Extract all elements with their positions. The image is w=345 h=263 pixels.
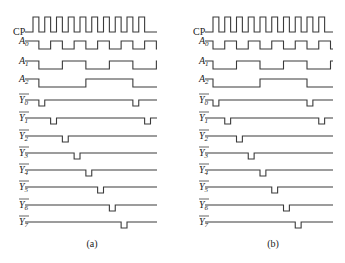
waveform-y0_n-b (205, 100, 333, 106)
waveform-cp-b (205, 17, 333, 32)
label-y3_n-b: Y3 (199, 147, 209, 160)
label-y3_n-a: Y3 (19, 147, 29, 160)
waveform-y4_n-b (205, 170, 333, 176)
label-a2-b: A2 (198, 73, 209, 86)
waveform-a1-a (25, 61, 157, 69)
label-y6_n-b: Y6 (199, 199, 209, 212)
waveform-a0-a (25, 41, 157, 49)
timing-diagram: CPA0A1A2Y0Y1Y2Y3Y4Y5Y6Y7 CPA0A1A2Y0Y1Y2Y… (0, 0, 345, 263)
panel-b: CPA0A1A2Y0Y1Y2Y3Y4Y5Y6Y7 (193, 17, 333, 229)
label-y4_n-a: Y4 (19, 164, 29, 177)
caption-a: (a) (86, 238, 97, 250)
panel-a: CPA0A1A2Y0Y1Y2Y3Y4Y5Y6Y7 (13, 17, 157, 229)
label-y0_n-b: Y0 (199, 94, 209, 107)
label-y7_n-a: Y7 (19, 216, 29, 229)
label-y5_n-a: Y5 (19, 181, 29, 194)
waveform-a2-a (25, 79, 157, 87)
waveform-y3_n-b (205, 153, 333, 159)
waveform-y6_n-a (25, 205, 157, 211)
label-y4_n-b: Y4 (199, 164, 209, 177)
label-y2_n-a: Y2 (19, 130, 29, 143)
waveform-y1_n-b (205, 118, 333, 124)
label-a0-a: A0 (18, 35, 29, 48)
label-y1_n-b: Y1 (199, 112, 208, 125)
waveform-y7_n-a (25, 222, 157, 228)
label-y1_n-a: Y1 (19, 112, 28, 125)
waveform-y0_n-a (25, 100, 157, 106)
waveform-y4_n-a (25, 170, 157, 176)
waveform-y6_n-b (205, 205, 333, 211)
waveform-a2-b (205, 79, 333, 87)
label-y0_n-a: Y0 (19, 94, 29, 107)
label-a1-a: A1 (18, 55, 29, 68)
label-y5_n-b: Y5 (199, 181, 209, 194)
waveform-y7_n-b (205, 222, 333, 228)
waveform-a0-b (205, 41, 333, 49)
caption-b: (b) (267, 238, 279, 250)
waveform-y3_n-a (25, 153, 157, 159)
waveform-y1_n-a (25, 118, 157, 124)
waveform-a1-b (205, 61, 333, 69)
label-a2-a: A2 (18, 73, 29, 86)
label-a0-b: A0 (198, 35, 209, 48)
waveform-y5_n-b (205, 187, 333, 193)
label-y2_n-b: Y2 (199, 130, 209, 143)
label-y7_n-b: Y7 (199, 216, 209, 229)
waveform-cp-a (25, 17, 157, 32)
waveform-y2_n-b (205, 136, 333, 142)
label-a1-b: A1 (198, 55, 209, 68)
waveform-y2_n-a (25, 136, 157, 142)
label-y6_n-a: Y6 (19, 199, 29, 212)
waveform-y5_n-a (25, 187, 157, 193)
